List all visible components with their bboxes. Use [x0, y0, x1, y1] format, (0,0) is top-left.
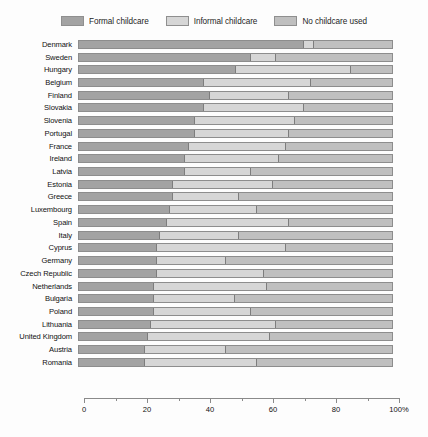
bar-segment-none	[295, 117, 392, 124]
category-label: Estonia	[0, 180, 78, 189]
chart-row: Poland	[0, 305, 428, 318]
legend-swatch-informal	[166, 16, 189, 26]
legend-entry-none: No childcare used	[274, 16, 367, 26]
bar-segment-informal	[204, 104, 304, 111]
stacked-bar	[78, 129, 393, 138]
chart-row: Greece	[0, 191, 428, 204]
chart-row: Netherlands	[0, 280, 428, 293]
category-label: Austria	[0, 345, 78, 354]
axis-tick-label: 20	[143, 405, 151, 414]
bar-segment-formal	[79, 232, 160, 239]
category-label: Spain	[0, 218, 78, 227]
bar-segment-none	[257, 206, 392, 213]
bar-segment-none	[276, 54, 392, 61]
legend-entry-informal: Informal childcare	[166, 16, 258, 26]
stacked-bar	[78, 358, 393, 367]
stacked-bar	[78, 205, 393, 214]
bar-segment-none	[314, 41, 392, 48]
axis-tick-minor	[179, 398, 180, 401]
chart-legend: Formal childcare Informal childcare No c…	[0, 16, 428, 26]
bar-segment-none	[311, 79, 392, 86]
axis-tick-minor	[305, 398, 306, 401]
legend-swatch-none	[274, 16, 297, 26]
category-label: Lithuania	[0, 320, 78, 329]
bar-segment-informal	[157, 270, 263, 277]
category-label: Romania	[0, 358, 78, 367]
axis-tick-label: 100%	[389, 405, 408, 414]
stacked-bar	[78, 103, 393, 112]
axis-tick-minor	[242, 398, 243, 401]
chart-row: United Kingdom	[0, 331, 428, 344]
legend-label-formal: Formal childcare	[89, 17, 149, 26]
category-label: Czech Republic	[0, 269, 78, 278]
bar-segment-informal	[173, 181, 273, 188]
chart-row: Bulgaria	[0, 292, 428, 305]
bar-segment-none	[239, 193, 392, 200]
x-axis: 020406080100%	[84, 398, 399, 432]
stacked-bar	[78, 243, 393, 252]
stacked-bar	[78, 142, 393, 151]
chart-row: Hungary	[0, 63, 428, 76]
category-label: Slovakia	[0, 103, 78, 112]
chart-row: Estonia	[0, 178, 428, 191]
axis-tick-major	[210, 398, 211, 403]
stacked-bar-chart: Formal childcare Informal childcare No c…	[0, 0, 428, 437]
bar-segment-formal	[79, 117, 195, 124]
stacked-bar	[78, 53, 393, 62]
category-label: Luxembourg	[0, 205, 78, 214]
stacked-bar	[78, 345, 393, 354]
bar-segment-none	[289, 219, 392, 226]
stacked-bar	[78, 231, 393, 240]
bar-segment-formal	[79, 346, 145, 353]
bar-segment-informal	[204, 79, 310, 86]
bar-segment-informal	[154, 308, 251, 315]
bar-segment-informal	[195, 117, 295, 124]
legend-label-none: No childcare used	[302, 17, 367, 26]
bar-segment-none	[267, 283, 392, 290]
bar-segment-none	[304, 104, 392, 111]
chart-row: Lithuania	[0, 318, 428, 331]
chart-row: Luxembourg	[0, 203, 428, 216]
stacked-bar	[78, 294, 393, 303]
chart-row: Slovakia	[0, 102, 428, 115]
stacked-bar	[78, 40, 393, 49]
stacked-bar	[78, 116, 393, 125]
axis-tick-major	[399, 398, 400, 403]
category-label: Cyprus	[0, 243, 78, 252]
stacked-bar	[78, 256, 393, 265]
bar-segment-formal	[79, 104, 204, 111]
bar-segment-informal	[154, 295, 235, 302]
bar-segment-formal	[79, 308, 154, 315]
bar-segment-none	[270, 333, 392, 340]
axis-tick-label: 0	[82, 405, 86, 414]
bar-segment-informal	[304, 41, 313, 48]
bar-segment-informal	[195, 130, 289, 137]
plot-area: DenmarkSwedenHungaryBelgiumFinlandSlovak…	[0, 38, 428, 398]
bar-segment-informal	[185, 155, 279, 162]
chart-row: Romania	[0, 356, 428, 369]
bar-segment-none	[264, 270, 392, 277]
chart-row: Sweden	[0, 51, 428, 64]
bar-segment-none	[279, 155, 392, 162]
bar-segment-informal	[189, 143, 286, 150]
bar-segment-formal	[79, 321, 151, 328]
bar-segment-none	[251, 168, 392, 175]
bar-segment-formal	[79, 244, 157, 251]
category-label: Poland	[0, 307, 78, 316]
bar-segment-informal	[167, 219, 289, 226]
chart-row: Latvia	[0, 165, 428, 178]
stacked-bar	[78, 332, 393, 341]
category-label: Bulgaria	[0, 294, 78, 303]
bar-segment-formal	[79, 79, 204, 86]
category-label: Netherlands	[0, 282, 78, 291]
bar-segment-none	[226, 346, 392, 353]
bar-segment-none	[289, 130, 392, 137]
bar-segment-informal	[236, 66, 352, 73]
bar-segment-informal	[157, 257, 226, 264]
category-label: Germany	[0, 256, 78, 265]
bar-segment-formal	[79, 66, 236, 73]
bar-segment-none	[286, 244, 392, 251]
bar-segment-formal	[79, 295, 154, 302]
stacked-bar	[78, 65, 393, 74]
bar-segment-formal	[79, 92, 210, 99]
